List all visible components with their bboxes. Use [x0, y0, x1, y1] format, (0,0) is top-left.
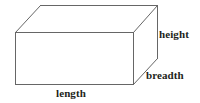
cuboid-figure: height breadth length — [0, 0, 200, 103]
cuboid-front-face — [15, 32, 133, 84]
length-label: length — [56, 87, 86, 99]
cuboid-top-face — [15, 5, 158, 32]
breadth-label: breadth — [146, 69, 184, 81]
height-label: height — [159, 28, 189, 40]
cuboid-drawing — [0, 0, 200, 103]
